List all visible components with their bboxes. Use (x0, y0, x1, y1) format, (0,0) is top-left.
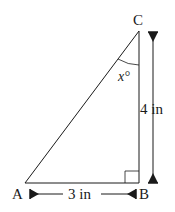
arrowhead-top-icon (148, 32, 158, 42)
arrowhead-left-icon (30, 189, 39, 199)
arrowhead-bottom-icon (148, 173, 158, 183)
angle-arc-c (118, 59, 139, 65)
dimension-label-ab: 3 in (68, 186, 91, 202)
vertex-label-b: B (139, 186, 149, 202)
right-angle-marker (125, 171, 139, 183)
arrowhead-right-icon (127, 189, 136, 199)
side-ac-hypotenuse (25, 31, 139, 183)
vertex-label-c: C (133, 12, 143, 28)
angle-label-x: x° (117, 69, 130, 84)
triangle-diagram: C A B x° 4 in 3 in (0, 0, 175, 212)
vertex-label-a: A (12, 186, 23, 202)
dimension-label-bc: 4 in (140, 101, 163, 117)
